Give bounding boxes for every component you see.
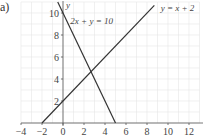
y-tick-label: 2 bbox=[54, 96, 59, 107]
x-tick-label: 6 bbox=[124, 126, 129, 136]
x-tick-label: −4 bbox=[16, 126, 27, 136]
x-tick-label: 4 bbox=[103, 126, 108, 136]
x-tick-label: 2 bbox=[82, 126, 87, 136]
y-tick-label: 10 bbox=[49, 8, 59, 19]
y-tick-label: 8 bbox=[54, 30, 59, 41]
x-tick-label: 8 bbox=[145, 126, 150, 136]
line-chart: y −4−2024681012246810 2x + y = 10y = x +… bbox=[0, 0, 203, 136]
x-tick-label: −2 bbox=[37, 126, 48, 136]
series-label: y = x + 2 bbox=[160, 3, 195, 13]
series-label: 2x + y = 10 bbox=[70, 16, 113, 26]
x-tick-label: 12 bbox=[184, 126, 194, 136]
x-tick-label: 0 bbox=[61, 126, 66, 136]
y-axis-label: y bbox=[65, 0, 70, 10]
y-tick-label: 6 bbox=[54, 52, 59, 63]
x-tick-label: 10 bbox=[163, 126, 173, 136]
y-tick-label: 4 bbox=[54, 74, 59, 85]
line-labels: 2x + y = 10y = x + 2 bbox=[70, 3, 194, 26]
